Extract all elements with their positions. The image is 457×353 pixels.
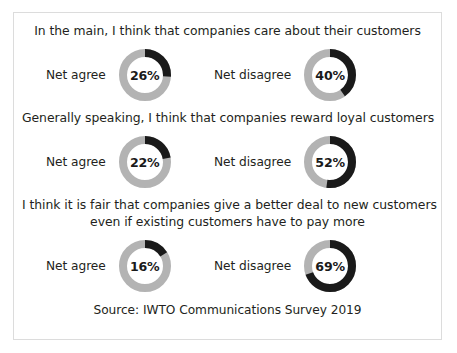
donut-value-text: 40% — [303, 48, 357, 102]
donut-chart-net-disagree-3: 69% — [303, 239, 357, 293]
donut-value-text: 16% — [118, 239, 172, 293]
net-agree-label: Net agree — [46, 68, 106, 82]
survey-block-1: In the main, I think that companies care… — [14, 22, 441, 106]
donut-row-3: Net agree 16% Net disagree — [14, 235, 441, 297]
net-disagree-group-2: Net disagree 52% — [214, 131, 357, 193]
donut-value-text: 52% — [303, 135, 357, 189]
donut-chart-net-agree-2: 22% — [118, 135, 172, 189]
net-agree-group-1: Net agree 26% — [46, 44, 172, 106]
donut-value-text: 69% — [303, 239, 357, 293]
statement-text-1: In the main, I think that companies care… — [14, 22, 441, 39]
donut-row-1: Net agree 26% Net disagree — [14, 44, 441, 106]
survey-block-2: Generally speaking, I think that compani… — [14, 109, 441, 193]
donut-chart-net-agree-1: 26% — [118, 48, 172, 102]
statement-line: Generally speaking, I think that compani… — [22, 109, 433, 126]
statement-line: In the main, I think that companies care… — [22, 22, 433, 39]
net-disagree-label: Net disagree — [214, 259, 291, 273]
net-disagree-group-1: Net disagree 40% — [214, 44, 357, 106]
donut-chart-net-disagree-2: 52% — [303, 135, 357, 189]
net-disagree-label: Net disagree — [214, 68, 291, 82]
statement-line: even if existing customers have to pay m… — [22, 213, 433, 230]
net-agree-group-2: Net agree 22% — [46, 131, 172, 193]
source-note: Source: IWTO Communications Survey 2019 — [14, 303, 441, 317]
statement-line: I think it is fair that companies give a… — [22, 196, 433, 213]
net-disagree-group-3: Net disagree 69% — [214, 235, 357, 297]
donut-value-text: 22% — [118, 135, 172, 189]
infographic-panel: In the main, I think that companies care… — [0, 0, 457, 353]
survey-block-3: I think it is fair that companies give a… — [14, 196, 441, 297]
statement-text-2: Generally speaking, I think that compani… — [14, 109, 441, 126]
donut-chart-net-disagree-1: 40% — [303, 48, 357, 102]
donut-row-2: Net agree 22% Net disagree — [14, 131, 441, 193]
donut-value-text: 26% — [118, 48, 172, 102]
infographic-content: In the main, I think that companies care… — [14, 13, 441, 339]
donut-chart-net-agree-3: 16% — [118, 239, 172, 293]
statement-text-3: I think it is fair that companies give a… — [14, 196, 441, 230]
net-agree-label: Net agree — [46, 155, 106, 169]
net-agree-group-3: Net agree 16% — [46, 235, 172, 297]
net-agree-label: Net agree — [46, 259, 106, 273]
net-disagree-label: Net disagree — [214, 155, 291, 169]
